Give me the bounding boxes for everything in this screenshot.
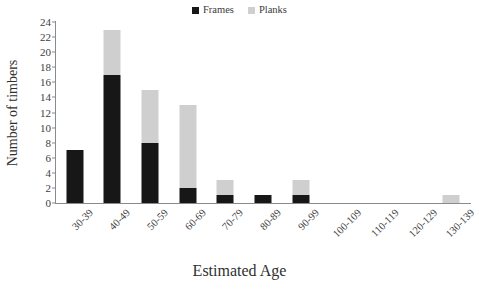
x-tick-label: 130-139 [444, 207, 477, 240]
x-tick-cell: 50-59 [131, 205, 169, 257]
stacked-bar[interactable] [255, 195, 272, 203]
plot-area: 024681012141618202224 [56, 22, 470, 203]
legend-item-frames: Frames [192, 5, 234, 16]
bar-segment-frames[interactable] [255, 195, 272, 203]
x-tick-cell: 60-69 [169, 205, 207, 257]
bar-category [395, 22, 433, 203]
x-tick-cell: 100-109 [319, 205, 357, 257]
x-tick-label: 80-89 [258, 207, 283, 232]
x-axis-tick-labels: 30-3940-4950-5960-6970-7980-8990-99100-1… [56, 205, 470, 257]
x-tick-cell: 30-39 [56, 205, 94, 257]
bar-segment-frames[interactable] [217, 195, 234, 203]
bar-chart: Frames Planks Number of timbers 02468101… [0, 0, 479, 291]
bar-category [282, 22, 320, 203]
stacked-bar[interactable] [142, 90, 159, 203]
bar-category [56, 22, 94, 203]
x-axis-line [55, 203, 471, 204]
x-tick-cell: 110-119 [357, 205, 395, 257]
bar-segment-planks[interactable] [179, 105, 196, 188]
stacked-bar[interactable] [292, 180, 309, 203]
x-tick-cell: 130-139 [432, 205, 470, 257]
x-tick-label: 30-39 [70, 207, 95, 232]
stacked-bar[interactable] [66, 150, 83, 203]
x-tick-cell: 90-99 [282, 205, 320, 257]
bar-segment-frames[interactable] [104, 75, 121, 203]
bar-segment-planks[interactable] [142, 90, 159, 143]
x-tick-label: 60-69 [183, 207, 208, 232]
bar-segment-planks[interactable] [217, 180, 234, 195]
bar-segment-frames[interactable] [292, 195, 309, 203]
x-tick-cell: 70-79 [207, 205, 245, 257]
bar-segment-frames[interactable] [66, 150, 83, 203]
bar-category [207, 22, 245, 203]
bar-category [131, 22, 169, 203]
chart-legend: Frames Planks [0, 5, 479, 16]
x-tick-cell: 40-49 [94, 205, 132, 257]
bar-category [357, 22, 395, 203]
bar-category [244, 22, 282, 203]
bar-category [432, 22, 470, 203]
y-axis-title-text: Number of timbers [5, 59, 21, 166]
legend-label-planks: Planks [259, 5, 287, 16]
x-tick-cell: 80-89 [244, 205, 282, 257]
bar-segment-frames[interactable] [179, 188, 196, 203]
x-tick-label: 90-99 [296, 207, 321, 232]
legend-label-frames: Frames [203, 5, 234, 16]
x-tick-label: 70-79 [220, 207, 245, 232]
stacked-bar[interactable] [217, 180, 234, 203]
bar-segment-planks[interactable] [104, 30, 121, 75]
legend-swatch-frames [192, 7, 199, 14]
x-axis-title: Estimated Age [0, 262, 479, 280]
bar-category [94, 22, 132, 203]
bar-category [319, 22, 357, 203]
x-tick-label: 50-59 [145, 207, 170, 232]
x-tick-cell: 120-129 [395, 205, 433, 257]
bar-segment-planks[interactable] [292, 180, 309, 195]
legend-item-planks: Planks [248, 5, 287, 16]
stacked-bar[interactable] [443, 195, 460, 203]
stacked-bar[interactable] [179, 105, 196, 203]
stacked-bar[interactable] [104, 30, 121, 203]
bar-category [169, 22, 207, 203]
y-axis-title: Number of timbers [4, 22, 22, 203]
bar-series-group [56, 22, 470, 203]
x-tick-label: 40-49 [107, 207, 132, 232]
bar-segment-planks[interactable] [443, 195, 460, 203]
legend-swatch-planks [248, 7, 255, 14]
bar-segment-frames[interactable] [142, 143, 159, 203]
